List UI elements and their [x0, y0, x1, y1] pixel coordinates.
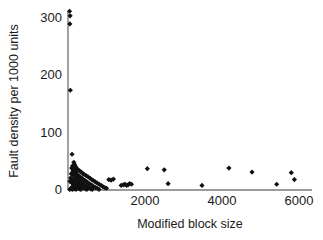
data-point — [292, 177, 297, 182]
x-axis-title: Modified block size — [137, 217, 243, 231]
y-tick-label-0: 0 — [55, 182, 62, 197]
data-point — [226, 165, 231, 170]
plot-canvas: 300 200 100 0 2000 4000 6000 Modified bl… — [0, 0, 323, 240]
y-tick-label-200: 200 — [40, 67, 62, 82]
data-point — [69, 152, 74, 157]
y-tick-label-300: 300 — [40, 10, 62, 25]
data-point — [145, 166, 150, 171]
x-tick-label-6000: 6000 — [285, 193, 314, 208]
y-axis-title: Fault density per 1000 units — [7, 24, 21, 178]
data-point — [249, 170, 254, 175]
x-tick-label-2000: 2000 — [131, 193, 160, 208]
scatter-plot-figure: 300 200 100 0 2000 4000 6000 Modified bl… — [0, 0, 323, 240]
data-point — [199, 183, 204, 188]
data-point — [274, 182, 279, 187]
y-tick-label-100: 100 — [40, 125, 62, 140]
data-point — [162, 167, 167, 172]
data-points-layer — [67, 9, 297, 192]
data-point — [166, 181, 171, 186]
data-point — [289, 170, 294, 175]
x-tick-label-4000: 4000 — [208, 193, 237, 208]
